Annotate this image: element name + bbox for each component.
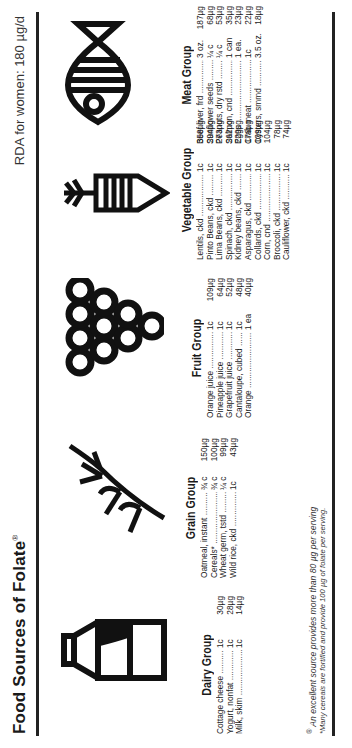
- folate-value: 74µg: [282, 120, 292, 150]
- food-name: Milk, skim: [235, 650, 245, 734]
- list-item: Yogurt, nonfat1c28µg: [226, 596, 236, 734]
- group-heading: Fruit Group: [190, 289, 204, 408]
- footnote-excellent: ® An excellent source provides more than…: [306, 507, 318, 734]
- food-name: Pineapple juice: [216, 332, 226, 418]
- footnote-cereals: *Many cereals are fortified and provide …: [318, 508, 327, 734]
- dairy-group: Dairy Group Cottage cheese1c30µg Yogurt,…: [200, 596, 245, 734]
- food-name: Orange: [244, 332, 254, 418]
- folate-value: 14µg: [235, 596, 245, 626]
- food-name: Pinto Beans, ckd: [206, 174, 216, 260]
- food-name: Corn, cnd: [263, 174, 273, 260]
- list-item: Broccoli, ckd1c78µg: [273, 120, 283, 260]
- list-item: Peanuts, dry rstd¼ c53µg: [215, 6, 225, 144]
- food-name: Kidney beans, ckd: [234, 174, 244, 260]
- folate-value: 43µg: [229, 438, 239, 468]
- list-item: Oysters, smmd3.5 oz.18µg: [254, 6, 264, 144]
- food-name: Cantaloupe, cubed: [235, 332, 245, 418]
- grain-group: Grain Group Oatmeal, instant¾ c150µg Cer…: [184, 438, 238, 578]
- food-name: Asparagus, ckd: [244, 174, 254, 260]
- folate-chart-page: Food Sources of Folate® RDA for women: 1…: [0, 0, 352, 748]
- list-item: Eggs1 ea.23µg: [234, 6, 244, 144]
- title-text: Food Sources of Folate: [10, 541, 29, 734]
- food-name: Cottage cheese: [216, 650, 226, 734]
- list-item: Orange1 ea40µg: [244, 278, 254, 418]
- list-item: Cauliflower, ckd1c74µg: [282, 120, 292, 260]
- food-name: Crab meat: [244, 60, 254, 144]
- serving: 3.5 oz.: [254, 36, 264, 60]
- food-name: Eggs: [234, 60, 244, 144]
- list-item: Orange juice1c109µg: [206, 278, 216, 418]
- list-item: Salmon, cnd1 can35µg: [225, 6, 235, 144]
- bottom-rule: [332, 12, 335, 736]
- list-item: Grapefruit juice1c52µg: [225, 278, 235, 418]
- food-name: Orange juice: [206, 332, 216, 418]
- serving: 1c: [282, 150, 292, 174]
- food-name: Beef liver, frd: [196, 60, 206, 144]
- fish-icon: [48, 18, 168, 128]
- folate-value: 18µg: [254, 6, 264, 36]
- serving: 1c: [235, 626, 245, 650]
- serving: 1c: [229, 468, 239, 492]
- milk-carton-icon: [60, 614, 170, 686]
- food-name: Sunflower seeds: [206, 60, 216, 144]
- footnote-text: An excellent source provides more than 8…: [308, 507, 318, 727]
- food-name: Broccoli, ckd: [273, 174, 283, 260]
- grapes-icon: [64, 278, 164, 378]
- food-name: Cauliflower, ckd: [282, 174, 292, 260]
- fruit-group: Fruit Group Orange juice1c109µg Pineappl…: [190, 278, 254, 418]
- group-heading: Dairy Group: [200, 606, 214, 723]
- food-name: Yogurt, nonfat: [226, 650, 236, 734]
- excellent-source-mark: ®: [11, 535, 20, 541]
- food-name: Collards, ckd: [254, 174, 264, 260]
- list-item: Cottage cheese1c30µg: [216, 596, 226, 734]
- group-heading: Vegetable Group: [180, 131, 194, 250]
- food-name: Wild rice, ckd: [229, 492, 239, 578]
- list-item: Pineapple juice1c64µg: [216, 278, 226, 418]
- list-item: Wild rice, ckd1c43µg: [229, 438, 239, 578]
- group-heading: Meat Group: [180, 16, 194, 133]
- food-name: Lima Beans, ckd: [215, 174, 225, 260]
- serving: 1 ea: [244, 308, 254, 332]
- food-name: Lentils, ckd: [196, 174, 206, 260]
- excellent-source-mark: ®: [306, 729, 314, 734]
- food-name: Wheat germ, tstd: [219, 492, 229, 578]
- top-rule: [36, 12, 39, 736]
- list-item: Beef liver, frd3 oz.187µg: [196, 6, 206, 144]
- list-item: Milk, skim1c14µg: [235, 596, 245, 734]
- food-name: Grapefruit juice: [225, 332, 235, 418]
- list-item: Sunflower seeds¼ c68µg: [206, 6, 216, 144]
- carrot-icon: [60, 168, 170, 218]
- food-name: Spinach, ckd: [225, 174, 235, 260]
- food-name: Peanuts, dry rstd: [215, 60, 225, 144]
- rda-label: RDA for women: 180 µg/d: [12, 16, 27, 165]
- meat-group: Meat Group Beef liver, frd3 oz.187µg Sun…: [180, 6, 263, 144]
- list-item: Corn, cnd1c104µg: [263, 120, 273, 260]
- food-name: Salmon, cnd: [225, 60, 235, 144]
- list-item: Crab meat1c22µg: [244, 6, 254, 144]
- list-item: Wheat germ, tstd¼ c99µg: [219, 438, 229, 578]
- wheat-icon: [60, 438, 170, 538]
- food-name: Oysters, smmd: [254, 60, 264, 144]
- food-name: Cereals*: [210, 492, 220, 578]
- group-heading: Grain Group: [184, 449, 198, 568]
- food-name: Oatmeal, instant: [200, 492, 210, 578]
- folate-value: 40µg: [244, 278, 254, 308]
- list-item: Cantaloupe, cubed1c48µg: [235, 278, 245, 418]
- list-item: Cereals*¾ c100µg: [210, 438, 220, 578]
- page-title: Food Sources of Folate®: [10, 535, 30, 734]
